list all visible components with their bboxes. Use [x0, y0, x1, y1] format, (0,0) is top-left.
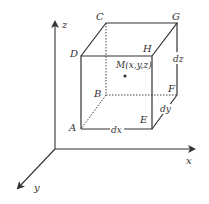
- vertex-f: F: [167, 83, 176, 94]
- dy-label: dy: [160, 104, 172, 114]
- point-m: [123, 74, 126, 77]
- vertex-b: B: [93, 88, 101, 99]
- vertex-a: A: [68, 122, 76, 133]
- cube-diagram: z x y C G D H B F A E M(x,y,z) dx dz dy: [0, 0, 209, 204]
- vertex-e: E: [139, 114, 148, 125]
- vertex-c: C: [96, 11, 104, 22]
- y-axis-label: y: [33, 182, 40, 193]
- vertex-g: G: [172, 11, 180, 22]
- diagram-svg: z x y C G D H B F A E M(x,y,z) dx dz dy: [0, 0, 209, 204]
- vertex-h: H: [142, 43, 152, 54]
- x-axis-label: x: [186, 155, 192, 166]
- point-m-label: M(x,y,z): [115, 60, 152, 70]
- dz-label: dz: [173, 54, 184, 64]
- vertex-d: D: [69, 48, 78, 59]
- dx-label: dx: [111, 125, 122, 135]
- z-axis-label: z: [61, 19, 68, 30]
